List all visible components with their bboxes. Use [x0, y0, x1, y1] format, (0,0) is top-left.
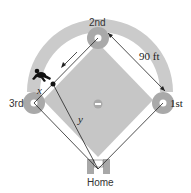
baseball-diagram: 2nd 90 ft 1st 3rd Home x y [0, 0, 191, 193]
batters-box-right [103, 159, 110, 174]
label-home: Home [87, 177, 114, 188]
pitchers-rubber [95, 103, 101, 105]
runner-position-dot [51, 82, 56, 87]
label-second-base: 2nd [89, 17, 106, 28]
label-90ft: 90 ft [139, 50, 159, 62]
label-third-base: 3rd [9, 98, 23, 109]
label-first-base: 1st [170, 97, 183, 109]
label-variable-y: y [77, 113, 83, 125]
label-variable-x: x [36, 84, 42, 96]
